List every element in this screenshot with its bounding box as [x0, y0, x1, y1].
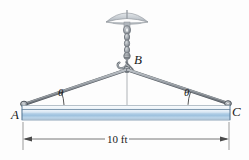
- dimension-label: 10 ft: [105, 133, 129, 145]
- sling-cable-left: [24, 69, 126, 104]
- canopy-icon: [106, 10, 148, 27]
- arrow-right-icon: [220, 137, 229, 142]
- point-label-c: C: [232, 104, 241, 120]
- angle-label-theta-left: θ: [58, 86, 63, 98]
- beam: [22, 106, 230, 121]
- sling-cable-right: [128, 69, 228, 103]
- point-label-b: B: [134, 52, 142, 68]
- angle-label-theta-right: θ: [184, 86, 189, 98]
- statics-beam-sling-diagram: A B C θ θ 10 ft: [0, 0, 249, 160]
- arrow-left-icon: [23, 137, 32, 142]
- chain-icon: [124, 26, 131, 60]
- point-label-a: A: [11, 107, 19, 123]
